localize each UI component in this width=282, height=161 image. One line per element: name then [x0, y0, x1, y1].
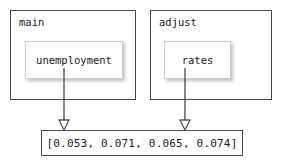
node-main-label: main: [19, 16, 44, 28]
edge-unemployment-to-values: [56, 68, 72, 132]
node-main[interactable]: main unemployment: [10, 10, 136, 100]
diagram-canvas: main unemployment adjust rates [0.053, 0…: [0, 0, 282, 161]
node-unemployment-label: unemployment: [36, 54, 112, 66]
node-rates[interactable]: rates: [164, 41, 231, 79]
node-rates-label: rates: [182, 54, 214, 66]
node-unemployment[interactable]: unemployment: [25, 41, 123, 79]
node-adjust[interactable]: adjust rates: [150, 10, 272, 100]
edge-rates-to-values: [177, 68, 193, 132]
node-adjust-label: adjust: [159, 16, 197, 28]
output-values-label: [0.053, 0.071, 0.065, 0.074]: [46, 137, 237, 150]
output-values-box[interactable]: [0.053, 0.071, 0.065, 0.074]: [41, 130, 243, 156]
